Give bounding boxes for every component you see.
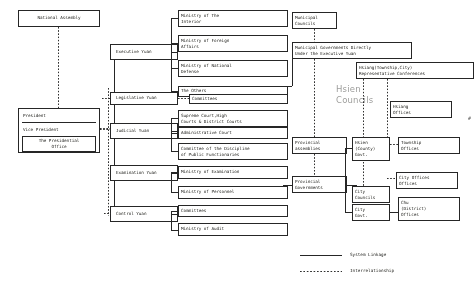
node-executive-yuan: Executive Yuan <box>110 44 178 60</box>
node-judicial-yuan: Judicial Yuan <box>110 123 178 139</box>
interrelationship-rail <box>108 88 109 216</box>
node-legislative-yuan: Legislative Yuan <box>110 92 178 105</box>
link-ministry-examination <box>171 172 178 173</box>
node-provincial-governments: Provincial Governments <box>292 176 347 193</box>
link-prov-assembly-govt <box>314 154 315 176</box>
node-president: President <box>19 109 99 123</box>
link-executive-municipal <box>178 86 292 87</box>
node-hsiang-offices: Hsiang Offices <box>390 101 452 118</box>
link-ministry-foreign <box>171 43 178 44</box>
page-marker: # <box>468 115 471 121</box>
link-provincial-out <box>347 185 357 186</box>
link-rail-judicial <box>100 129 111 130</box>
node-vice-president: Vice President <box>19 123 99 137</box>
node-city-councils: City Councils <box>352 186 390 203</box>
bracket-examination <box>171 172 172 192</box>
node-committees-legislative: Committees <box>189 94 288 104</box>
link-city-govt-chu <box>390 212 398 213</box>
link-examination-trunk <box>171 173 178 174</box>
link-conferences-down <box>387 79 388 137</box>
legend-system-linkage-line <box>300 255 342 256</box>
node-ministry-foreign-affairs: Ministry of Foreign Affairs <box>178 35 288 52</box>
link-municipal-riser <box>292 51 293 86</box>
link-hsien-township <box>390 144 398 145</box>
bracket-provincial-local <box>345 148 346 213</box>
link-administrative-court <box>171 133 178 134</box>
legend-interrelationship-label: Interrelationship <box>350 268 394 273</box>
link-the-others <box>171 91 178 92</box>
node-ministry-interior: Ministry of The Interior <box>178 10 288 27</box>
link-hsien-govt <box>345 148 352 149</box>
node-provincial-assemblies: Provincial assemblies <box>292 137 347 154</box>
link-control-trunk <box>171 214 178 215</box>
link-provincial-rail <box>314 59 315 137</box>
link-committees-control <box>171 211 178 212</box>
link-rail-legislative <box>102 98 111 99</box>
link-legislative-committees <box>178 98 189 99</box>
link-committee-discipline <box>171 151 178 152</box>
node-committee-discipline: Committee of the Discipline of Public Fu… <box>178 143 288 160</box>
node-examination-yuan: Examination Yuan <box>110 165 178 181</box>
node-control-yuan: Control Yuan <box>110 206 178 222</box>
node-ministry-personnel: Ministry of Personnel <box>178 186 288 199</box>
node-ministry-audit: Ministry of Audit <box>178 223 288 236</box>
link-executive-bracket <box>171 52 178 53</box>
link-judicial-trunk <box>171 131 178 132</box>
link-ministry-personnel <box>171 192 178 193</box>
legend-interrelationship-line <box>300 271 342 272</box>
node-chu-district-offices: Chu (District) Offices <box>398 197 460 221</box>
node-municipal-governments: Municipal Governments Directly Under the… <box>292 42 412 59</box>
node-city-offices: City Offices Offices <box>396 172 458 189</box>
link-ministry-audit <box>171 230 178 231</box>
node-hsiang-conferences: Hsiang(Township,City) Representative Con… <box>356 62 474 79</box>
node-hsien-county-govt: Hsien (County) Govt. <box>352 137 390 161</box>
bracket-judicial-courts <box>171 118 172 152</box>
link-assembly-president <box>58 27 59 108</box>
link-ministry-interior <box>171 18 178 19</box>
node-ministry-examination: Ministry of Examination <box>178 166 288 179</box>
government-organization-chart: National Assembly President Vice Preside… <box>0 0 476 284</box>
link-municipal-councils-govt <box>314 29 315 42</box>
node-presidential-office: The Presidential Office <box>22 136 96 152</box>
link-rail-control <box>104 213 111 214</box>
node-municipal-councils: Municipal Councils <box>292 12 337 29</box>
node-committees-control: Committees <box>178 205 288 217</box>
node-national-assembly: National Assembly <box>18 10 100 27</box>
node-city-govt: City Govt. <box>352 204 390 221</box>
link-trunk-provincial <box>283 185 292 186</box>
legend-system-linkage-label: System Linkage <box>350 252 386 257</box>
annotation-hsien-councils: Hsien Councils <box>336 84 373 105</box>
link-supreme-court <box>171 118 178 119</box>
node-administrative-court: Administrative Court <box>178 127 288 139</box>
bracket-executive-ministries <box>171 18 172 93</box>
link-city-govt <box>345 212 352 213</box>
link-ministry-defense <box>171 68 178 69</box>
link-hsien-city-offices <box>387 178 396 179</box>
node-supreme-court: Supreme Court,High Courts & District Cou… <box>178 110 288 127</box>
node-township-offices: Township Offices <box>398 137 460 154</box>
node-ministry-national-defense: Ministry of National Defense <box>178 60 288 77</box>
